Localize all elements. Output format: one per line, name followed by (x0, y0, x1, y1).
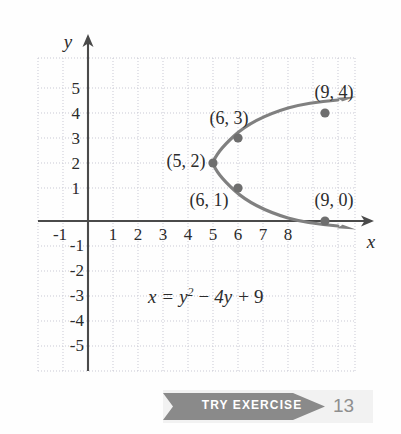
x-tick-2: 2 (134, 225, 143, 244)
y-tick-4: 4 (72, 104, 81, 123)
x-axis-label: x (366, 231, 376, 252)
x-tick-4: 4 (184, 225, 193, 244)
point-6-3 (233, 133, 242, 142)
try-exercise-label: TRY EXERCISE (193, 398, 311, 412)
y-tick-neg-5: -5 (70, 336, 84, 355)
x-tick-8: 8 (284, 225, 293, 244)
point-label-5-2: (5, 2) (167, 151, 206, 172)
equation: x=y2−4y+9 (147, 285, 263, 307)
y-tick-neg-1: -1 (70, 236, 84, 255)
y-tick-2: 2 (72, 154, 81, 173)
point-9-0 (320, 216, 329, 225)
y-tick-neg-4: -4 (70, 311, 85, 330)
point-label-6-3: (6, 3) (210, 108, 249, 129)
point-label-6-1: (6, 1) (190, 190, 229, 211)
equation-term2: 4y (214, 286, 233, 307)
equation-minus: − (199, 286, 210, 307)
point-9-4 (320, 108, 329, 117)
point-6-1 (233, 183, 242, 192)
y-tick-1: 1 (72, 179, 81, 198)
y-tick-neg-3: -3 (70, 286, 84, 305)
parabola-figure: y x 5 4 3 2 1 -1 -2 -3 -4 -5 -1 1 2 3 4 … (0, 0, 401, 434)
equation-constant: 9 (254, 286, 264, 307)
x-tick-7: 7 (259, 225, 268, 244)
x-tick-3: 3 (159, 225, 168, 244)
try-exercise-banner[interactable]: TRY EXERCISE 13 (163, 390, 373, 423)
y-tick-5: 5 (72, 79, 81, 98)
graph-svg: y x 5 4 3 2 1 -1 -2 -3 -4 -5 -1 1 2 3 4 … (0, 0, 401, 434)
point-label-9-4: (9, 4) (315, 82, 354, 103)
point-label-9-0: (9, 0) (315, 190, 354, 211)
x-tick-6: 6 (234, 225, 243, 244)
x-tick-neg-1: -1 (53, 225, 67, 244)
equation-lhs: x (147, 286, 157, 307)
point-5-2 (208, 158, 217, 167)
equation-exponent: 2 (188, 285, 194, 299)
equation-plus: + (238, 286, 249, 307)
equation-var1: y (177, 286, 188, 307)
x-tick-1: 1 (109, 225, 118, 244)
y-tick-3: 3 (72, 129, 81, 148)
y-axis-label: y (62, 31, 73, 52)
equation-equals: = (162, 286, 173, 307)
x-tick-5: 5 (209, 225, 218, 244)
exercise-number[interactable]: 13 (333, 395, 354, 417)
svg-text:x=y2−4y+9: x=y2−4y+9 (147, 285, 263, 307)
y-tick-neg-2: -2 (70, 261, 84, 280)
